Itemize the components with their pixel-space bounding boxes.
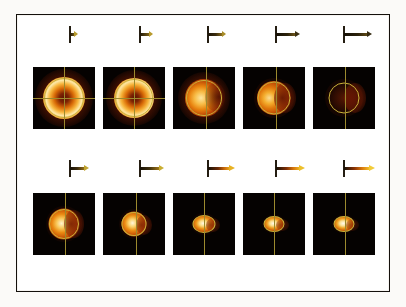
marker-row-2 xyxy=(17,157,389,183)
intensity-panel-r1-2[interactable] xyxy=(103,67,165,129)
scale-marker-r2-4 xyxy=(275,157,315,181)
scale-marker-r1-5 xyxy=(343,23,379,47)
scale-marker-r2-1 xyxy=(69,157,103,181)
intensity-panel-r1-1[interactable] xyxy=(33,67,95,129)
vertical-cut-line xyxy=(345,67,346,129)
scale-marker-r2-5 xyxy=(343,157,383,181)
marker-arrow-icon xyxy=(299,165,305,171)
scale-marker-r1-4 xyxy=(275,23,309,47)
marker-arrow-icon xyxy=(222,31,226,37)
marker-bar-icon xyxy=(276,167,299,170)
scale-marker-r2-2 xyxy=(139,157,175,181)
vertical-cut-line xyxy=(65,193,66,255)
marker-arrow-icon xyxy=(74,31,78,37)
fit-circle-overlay xyxy=(122,212,147,236)
marker-arrow-icon xyxy=(295,31,300,37)
marker-arrow-icon xyxy=(367,31,372,37)
marker-bar-icon xyxy=(344,167,369,170)
vertical-cut-line xyxy=(136,193,137,255)
marker-bar-icon xyxy=(70,167,84,170)
marker-bar-icon xyxy=(140,167,159,170)
panel-row-1 xyxy=(17,67,389,135)
marker-arrow-icon xyxy=(84,165,89,171)
intensity-panel-r1-3[interactable] xyxy=(173,67,235,129)
panel-row-2 xyxy=(17,193,389,261)
intensity-panel-r2-4[interactable] xyxy=(243,193,305,255)
vertical-cut-line xyxy=(206,67,207,129)
figure-frame xyxy=(16,14,390,292)
marker-arrow-icon xyxy=(369,165,375,171)
marker-arrow-icon xyxy=(229,165,235,171)
marker-bar-icon xyxy=(140,33,149,36)
fit-circle-overlay xyxy=(258,82,291,115)
scale-marker-r1-2 xyxy=(139,23,169,47)
fit-circle-overlay xyxy=(49,209,79,239)
vertical-cut-line xyxy=(274,193,275,255)
marker-bar-icon xyxy=(208,33,222,36)
fit-circle-overlay xyxy=(186,80,222,116)
scale-marker-r2-3 xyxy=(207,157,245,181)
marker-row-1 xyxy=(17,23,389,49)
marker-bar-icon xyxy=(276,33,295,36)
intensity-panel-r2-2[interactable] xyxy=(103,193,165,255)
intensity-panel-r2-3[interactable] xyxy=(173,193,235,255)
figure-canvas xyxy=(0,0,406,307)
intensity-panel-r1-4[interactable] xyxy=(243,67,305,129)
horizontal-cut-line xyxy=(33,98,95,99)
fit-circle-overlay xyxy=(334,216,355,232)
intensity-panel-r2-1[interactable] xyxy=(33,193,95,255)
vertical-cut-line xyxy=(276,67,277,129)
marker-bar-icon xyxy=(208,167,229,170)
marker-bar-icon xyxy=(344,33,367,36)
marker-arrow-icon xyxy=(149,31,153,37)
intensity-panel-r1-5[interactable] xyxy=(313,67,375,129)
marker-arrow-icon xyxy=(159,165,164,171)
scale-marker-r1-1 xyxy=(69,23,99,47)
scale-marker-r1-3 xyxy=(207,23,239,47)
fit-circle-overlay xyxy=(329,83,360,114)
horizontal-cut-line xyxy=(103,98,165,99)
vertical-cut-line xyxy=(345,193,346,255)
vertical-cut-line xyxy=(204,193,205,255)
intensity-panel-r2-5[interactable] xyxy=(313,193,375,255)
